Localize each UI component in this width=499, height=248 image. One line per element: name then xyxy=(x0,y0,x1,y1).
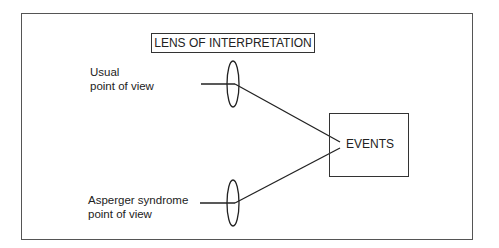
events-label: EVENTS xyxy=(346,137,394,151)
lens-lines xyxy=(0,0,499,248)
